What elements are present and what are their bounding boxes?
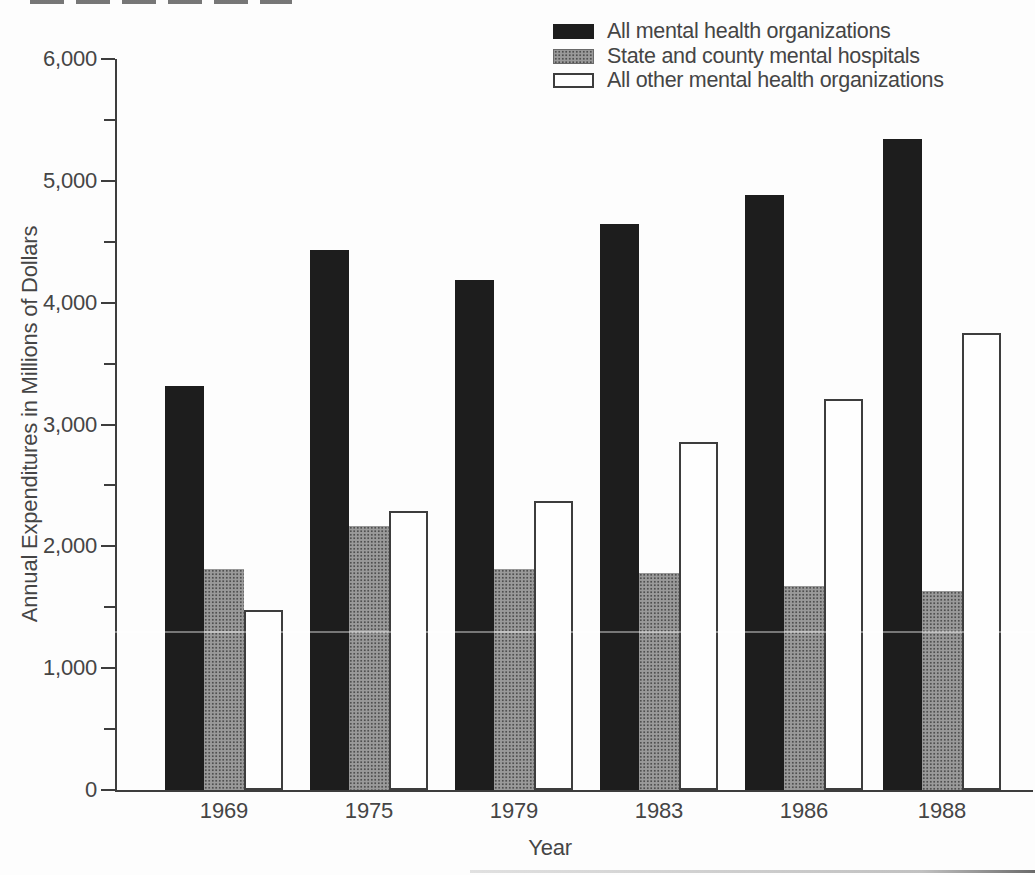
legend-label: All other mental health organizations bbox=[607, 68, 944, 93]
bar-1988-black bbox=[883, 139, 922, 790]
bar-1986-white bbox=[824, 399, 863, 790]
bar-1969-black bbox=[165, 386, 204, 790]
y-tick-label: 4,000 bbox=[7, 290, 97, 316]
y-major-tick bbox=[101, 58, 115, 60]
legend-item: All mental health organizations bbox=[553, 19, 944, 44]
x-tick-label-1969: 1969 bbox=[164, 798, 284, 824]
y-major-tick bbox=[101, 424, 115, 426]
bar-1975-black bbox=[310, 250, 349, 790]
y-tick-label: 2,000 bbox=[7, 533, 97, 559]
legend-item: All other mental health organizations bbox=[553, 68, 944, 93]
bar-1983-black bbox=[600, 224, 639, 790]
y-minor-tick bbox=[104, 363, 115, 365]
x-axis-line bbox=[115, 790, 1033, 792]
y-axis-line bbox=[115, 59, 117, 792]
legend-swatch-black bbox=[553, 24, 594, 39]
legend-swatch-white bbox=[553, 73, 594, 88]
y-minor-tick bbox=[104, 606, 115, 608]
y-tick-label: 3,000 bbox=[7, 412, 97, 438]
bar-1983-white bbox=[679, 442, 718, 790]
x-axis-title: Year bbox=[495, 835, 605, 861]
x-tick-label-1979: 1979 bbox=[454, 798, 574, 824]
bar-1979-gray bbox=[494, 569, 533, 790]
y-minor-tick bbox=[104, 484, 115, 486]
bar-1983-gray bbox=[639, 573, 678, 790]
y-tick-label: 6,000 bbox=[7, 46, 97, 72]
legend-swatch-gray bbox=[553, 49, 594, 64]
y-minor-tick bbox=[104, 119, 115, 121]
scanned-bar-chart-page: All mental health organizationsState and… bbox=[0, 0, 1035, 875]
x-tick-label-1988: 1988 bbox=[882, 798, 1002, 824]
bar-1988-gray bbox=[922, 591, 961, 790]
bar-1969-white bbox=[244, 610, 283, 790]
y-tick-label: 5,000 bbox=[7, 168, 97, 194]
y-major-tick bbox=[101, 302, 115, 304]
y-tick-label: 0 bbox=[7, 777, 97, 803]
bar-1986-gray bbox=[784, 586, 823, 790]
y-major-tick bbox=[101, 545, 115, 547]
bar-1979-white bbox=[534, 501, 573, 790]
x-tick-label-1975: 1975 bbox=[309, 798, 429, 824]
y-major-tick bbox=[101, 667, 115, 669]
x-tick-label-1983: 1983 bbox=[599, 798, 719, 824]
y-minor-tick bbox=[104, 241, 115, 243]
bar-1988-white bbox=[962, 333, 1001, 790]
bar-1969-gray bbox=[204, 569, 243, 790]
scan-artifact-top-cropped-text bbox=[30, 0, 292, 4]
legend-label: All mental health organizations bbox=[607, 19, 891, 44]
bar-1975-white bbox=[389, 511, 428, 790]
scan-artifact-scratch-line bbox=[115, 631, 1035, 633]
scan-artifact-bottom-edge bbox=[470, 870, 1035, 873]
y-major-tick bbox=[101, 789, 115, 791]
legend-item: State and county mental hospitals bbox=[553, 44, 944, 69]
y-major-tick bbox=[101, 180, 115, 182]
x-tick-label-1986: 1986 bbox=[744, 798, 864, 824]
y-tick-label: 1,000 bbox=[7, 655, 97, 681]
legend-label: State and county mental hospitals bbox=[607, 44, 920, 69]
legend: All mental health organizationsState and… bbox=[553, 19, 944, 93]
bar-1975-gray bbox=[349, 526, 388, 790]
bar-1979-black bbox=[455, 280, 494, 790]
y-minor-tick bbox=[104, 728, 115, 730]
bar-1986-black bbox=[745, 195, 784, 790]
